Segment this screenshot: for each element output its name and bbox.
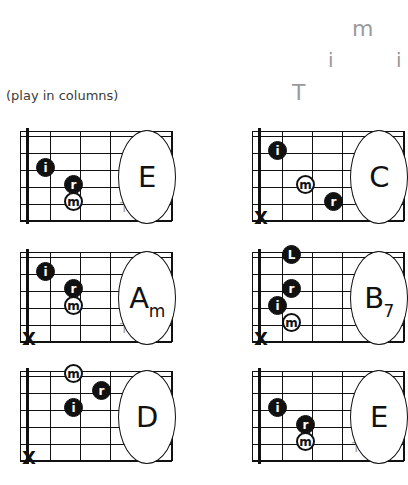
- mute-marker: X: [254, 330, 268, 348]
- finger-dot-m: m: [64, 192, 83, 211]
- fret-line-1: [282, 371, 283, 461]
- fret-line-2: [312, 131, 313, 221]
- chord-name-suffix: m: [149, 303, 165, 320]
- mute-marker: X: [254, 209, 268, 227]
- fret-line-0: [252, 131, 253, 221]
- finger-dot-m: m: [296, 432, 315, 451]
- fingering-letter-i-2: i: [396, 50, 402, 70]
- finger-dot-i: i: [36, 158, 55, 177]
- chord-name-suffix: 7: [384, 303, 394, 320]
- finger-dot-i: i: [268, 398, 287, 417]
- chord-name-badge: E: [350, 370, 408, 464]
- finger-dot-i: i: [268, 296, 287, 315]
- chord-name-text: E: [370, 403, 388, 432]
- finger-dot-m: m: [64, 296, 83, 315]
- fret-line-3: [342, 131, 343, 221]
- chord-name-text: C: [369, 163, 389, 192]
- finger-dot-i: i: [64, 398, 83, 417]
- nut-line: [26, 128, 29, 224]
- finger-dot-i: i: [268, 141, 287, 160]
- fret-line-0: [20, 252, 21, 342]
- fingering-letter-t-3: T: [292, 82, 305, 104]
- chord-name-badge: C: [350, 130, 408, 224]
- finger-dot-i: i: [36, 262, 55, 281]
- nut-line: [258, 368, 261, 464]
- fret-line-0: [252, 252, 253, 342]
- fret-line-0: [20, 371, 21, 461]
- fret-line-3: [342, 371, 343, 461]
- finger-dot-l: L: [282, 245, 301, 264]
- fingering-letter-i-1: i: [328, 50, 334, 70]
- chord-name-text: B: [364, 284, 383, 313]
- chord-diagram-c: TXimrC: [238, 126, 406, 226]
- chord-name-badge: B7: [350, 251, 408, 345]
- chord-name-text: D: [136, 403, 158, 432]
- chord-name-badge: D: [118, 370, 176, 464]
- finger-dot-m: m: [296, 175, 315, 194]
- chord-diagram-d: TXmriD: [6, 366, 174, 466]
- finger-dot-m: m: [282, 313, 301, 332]
- chord-diagram-b7: TXLrimB7: [238, 247, 406, 347]
- fret-line-1: [50, 371, 51, 461]
- chord-diagram-am: TXirmAm: [6, 247, 174, 347]
- mute-marker: X: [22, 330, 36, 348]
- fret-line-2: [80, 252, 81, 342]
- chord-diagram-e: TirmE: [238, 366, 406, 466]
- fret-line-3: [342, 252, 343, 342]
- fret-line-3: [110, 131, 111, 221]
- fret-line-3: [110, 252, 111, 342]
- fret-line-2: [80, 371, 81, 461]
- fret-line-0: [20, 131, 21, 221]
- fret-line-2: [312, 252, 313, 342]
- mute-marker: X: [22, 449, 36, 467]
- finger-dot-r: r: [282, 279, 301, 298]
- finger-dot-m: m: [64, 364, 83, 383]
- chord-diagram-e: TirmE: [6, 126, 174, 226]
- chord-name-badge: E: [118, 130, 176, 224]
- fingering-letter-m-0: m: [352, 18, 373, 40]
- finger-dot-r: r: [324, 192, 343, 211]
- fret-line-0: [252, 371, 253, 461]
- fret-line-3: [110, 371, 111, 461]
- chord-name-text: A: [129, 284, 148, 313]
- chord-name-text: E: [138, 163, 156, 192]
- chord-diagram-grid: TirmETXimrCTXirmAmTXLrimB7TXmriDTirmE: [0, 126, 404, 485]
- caption-play-in-columns: (play in columns): [6, 88, 118, 103]
- fret-line-1: [50, 131, 51, 221]
- chord-name-badge: Am: [118, 251, 176, 345]
- finger-dot-r: r: [92, 381, 111, 400]
